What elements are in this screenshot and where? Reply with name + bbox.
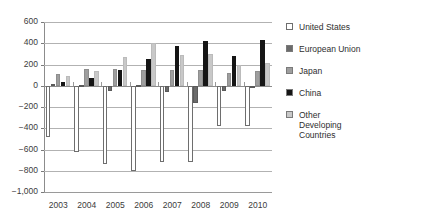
legend-swatch-european-union <box>286 45 293 52</box>
chart-legend: United StatesEuropean UnionJapanChinaOth… <box>286 22 418 152</box>
bar-japan-2005[interactable] <box>113 69 117 86</box>
x-axis-tick-label-2006: 2006 <box>130 200 159 210</box>
bar-japan-2009[interactable] <box>227 73 231 86</box>
y-tick-mark <box>41 150 44 151</box>
bar-japan-2006[interactable] <box>141 70 145 86</box>
bar-united-states-2003[interactable] <box>46 86 50 137</box>
bar-european-union-2010[interactable] <box>250 86 254 88</box>
x-axis-tick-label-2004: 2004 <box>73 200 102 210</box>
y-axis-tick-label: −200 <box>19 102 38 111</box>
bar-other-developing-countries-2003[interactable] <box>66 76 70 86</box>
x-axis-tick-label-2009: 2009 <box>215 200 244 210</box>
bar-other-developing-countries-2007[interactable] <box>180 55 184 86</box>
bar-group-2009 <box>215 22 244 192</box>
legend-item-united-states[interactable]: United States <box>286 22 418 32</box>
y-tick-mark <box>41 65 44 66</box>
bar-european-union-2003[interactable] <box>51 84 55 86</box>
y-tick-mark <box>41 128 44 129</box>
bar-china-2010[interactable] <box>260 40 264 86</box>
bar-european-union-2005[interactable] <box>108 86 112 91</box>
bar-united-states-2006[interactable] <box>131 86 135 171</box>
chart-container: 6004002000−200−400−600−800−1,000 2003200… <box>0 0 424 220</box>
bar-united-states-2010[interactable] <box>245 86 249 126</box>
legend-swatch-united-states <box>286 23 293 30</box>
bar-china-2005[interactable] <box>118 70 122 86</box>
bar-japan-2010[interactable] <box>255 71 259 86</box>
bar-china-2009[interactable] <box>232 56 236 86</box>
legend-item-label: United States <box>299 22 350 32</box>
y-tick-mark <box>41 43 44 44</box>
bar-european-union-2009[interactable] <box>222 86 226 91</box>
bar-japan-2008[interactable] <box>198 70 202 86</box>
bar-china-2008[interactable] <box>203 41 207 86</box>
x-axis-tick-label-2010: 2010 <box>244 200 273 210</box>
y-axis-tick-label: −400 <box>19 123 38 132</box>
bar-other-developing-countries-2009[interactable] <box>237 65 241 86</box>
bar-other-developing-countries-2008[interactable] <box>208 54 212 86</box>
legend-swatch-other-developing-countries <box>286 111 293 118</box>
bar-group-2008 <box>187 22 216 192</box>
bar-other-developing-countries-2006[interactable] <box>151 43 155 86</box>
legend-item-label: European Union <box>299 44 360 54</box>
bar-china-2006[interactable] <box>146 59 150 86</box>
y-tick-mark <box>41 107 44 108</box>
legend-item-label: China <box>299 88 321 98</box>
y-tick-mark <box>41 192 44 193</box>
gridline--1000 <box>44 192 272 193</box>
y-axis-tick-label: 400 <box>24 38 38 47</box>
legend-swatch-japan <box>286 67 293 74</box>
y-axis-tick-label: 0 <box>33 81 38 90</box>
legend-item-european-union[interactable]: European Union <box>286 44 418 54</box>
bar-group-2004 <box>73 22 102 192</box>
y-tick-mark <box>41 22 44 23</box>
bar-european-union-2004[interactable] <box>79 85 83 87</box>
y-axis-tick-label: −600 <box>19 145 38 154</box>
legend-swatch-china <box>286 89 293 96</box>
y-tick-mark <box>41 86 44 87</box>
legend-item-japan[interactable]: Japan <box>286 66 418 76</box>
bar-group-2007 <box>158 22 187 192</box>
bar-group-2006 <box>130 22 159 192</box>
bar-japan-2007[interactable] <box>170 70 174 86</box>
bar-other-developing-countries-2010[interactable] <box>265 63 269 85</box>
legend-item-other-developing-countries[interactable]: Other Developing Countries <box>286 110 418 140</box>
legend-item-label: Japan <box>299 66 322 76</box>
bar-united-states-2007[interactable] <box>160 86 164 163</box>
bar-china-2004[interactable] <box>89 78 93 85</box>
bar-other-developing-countries-2005[interactable] <box>123 57 127 86</box>
bar-european-union-2006[interactable] <box>136 85 140 87</box>
bar-japan-2003[interactable] <box>56 74 60 86</box>
bar-group-2010 <box>244 22 273 192</box>
bar-united-states-2004[interactable] <box>74 86 78 152</box>
bar-china-2007[interactable] <box>175 46 179 85</box>
bar-united-states-2009[interactable] <box>217 86 221 126</box>
bar-european-union-2008[interactable] <box>193 86 197 103</box>
bar-group-2003 <box>44 22 73 192</box>
x-axis-tick-label-2008: 2008 <box>187 200 216 210</box>
legend-item-china[interactable]: China <box>286 88 418 98</box>
x-axis-tick-label-2005: 2005 <box>101 200 130 210</box>
y-axis-tick-label: −1,000 <box>12 187 38 196</box>
x-axis-tick-label-2003: 2003 <box>44 200 73 210</box>
y-axis-tick-label: −800 <box>19 166 38 175</box>
bar-china-2003[interactable] <box>61 82 65 86</box>
legend-item-label: Other Developing Countries <box>299 110 342 140</box>
bar-other-developing-countries-2004[interactable] <box>94 71 98 86</box>
bar-group-2005 <box>101 22 130 192</box>
y-axis-tick-label: 200 <box>24 60 38 69</box>
x-axis-tick-label-2007: 2007 <box>158 200 187 210</box>
bar-united-states-2008[interactable] <box>188 86 192 163</box>
y-tick-mark <box>41 171 44 172</box>
bar-japan-2004[interactable] <box>84 69 88 86</box>
bar-united-states-2005[interactable] <box>103 86 107 165</box>
plot-area <box>44 22 272 192</box>
bar-european-union-2007[interactable] <box>165 86 169 92</box>
y-axis-tick-label: 600 <box>24 17 38 26</box>
